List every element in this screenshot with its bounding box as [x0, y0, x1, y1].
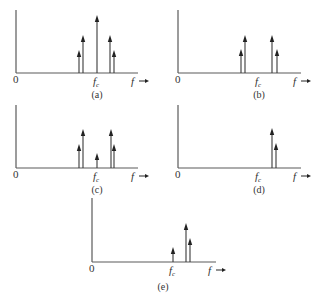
spectral-line-lower-sideband-2 [77, 50, 81, 73]
panel-caption: (a) [91, 89, 102, 101]
arrowhead-icon [270, 35, 274, 42]
arrowhead-icon [274, 143, 278, 150]
panel-caption: (d) [253, 184, 265, 196]
spectral-line-upper-sideband-2 [188, 238, 192, 262]
spectral-line-lower-sideband-1 [243, 35, 247, 73]
spectral-line-lower-sideband-1 [81, 35, 85, 73]
arrow-right-icon [145, 174, 149, 178]
frequency-axis-label: f [293, 170, 298, 182]
origin-label: 0 [13, 73, 19, 85]
arrowhead-icon [184, 223, 188, 230]
arrow-right-icon [222, 268, 226, 272]
arrowhead-icon [112, 50, 116, 57]
spectral-line-carrier [171, 247, 175, 262]
arrowhead-icon [81, 35, 85, 42]
carrier-frequency-label: fc [93, 170, 100, 184]
origin-label: 0 [89, 262, 95, 274]
arrowhead-icon [95, 15, 99, 22]
panel-caption: (b) [253, 89, 265, 101]
arrowhead-icon [239, 49, 243, 56]
spectral-line-upper-sideband-1 [184, 223, 188, 262]
spectral-line-lower-sideband-1 [81, 129, 85, 168]
panel-a: 0fcf(a) [13, 10, 149, 101]
spectral-line-upper-sideband-1 [108, 35, 112, 73]
origin-label: 0 [13, 168, 19, 180]
panel-caption: (e) [157, 281, 168, 293]
spectral-line-lower-sideband-2 [77, 144, 81, 168]
spectral-line-upper-sideband-2 [275, 49, 279, 73]
frequency-axis-label: f [208, 264, 213, 276]
spectral-line-lower-sideband-2 [239, 49, 243, 73]
spectral-line-carrier [95, 153, 99, 168]
carrier-frequency-label: fc [169, 264, 176, 278]
panel-caption: (c) [91, 184, 102, 196]
arrow-right-icon [307, 79, 311, 83]
frequency-axis-label: f [131, 75, 136, 87]
arrowhead-icon [81, 129, 85, 136]
spectral-line-carrier [95, 15, 99, 73]
panel-e: 0fcf(e) [89, 198, 226, 293]
arrowhead-icon [188, 238, 192, 245]
spectral-line-upper-sideband-1 [109, 129, 113, 168]
arrowhead-icon [109, 129, 113, 136]
spectral-line-upper-sideband-2 [112, 144, 116, 168]
arrow-right-icon [145, 79, 149, 83]
spectral-line-upper-sideband-2 [274, 143, 278, 168]
spectral-line-upper-sideband-2 [112, 50, 116, 73]
arrow-right-icon [307, 174, 311, 178]
arrowhead-icon [171, 247, 175, 254]
origin-label: 0 [175, 168, 181, 180]
arrowhead-icon [275, 49, 279, 56]
panel-c: 0fcf(c) [13, 105, 149, 196]
arrowhead-icon [270, 128, 274, 135]
spectral-line-upper-sideband-1 [270, 128, 274, 168]
carrier-frequency-label: fc [255, 170, 262, 184]
arrowhead-icon [95, 153, 99, 160]
arrowhead-icon [108, 35, 112, 42]
origin-label: 0 [175, 73, 181, 85]
arrowhead-icon [77, 50, 81, 57]
arrowhead-icon [77, 144, 81, 151]
arrowhead-icon [243, 35, 247, 42]
panel-b: 0fcf(b) [175, 10, 311, 101]
carrier-frequency-label: fc [93, 75, 100, 89]
frequency-axis-label: f [293, 75, 298, 87]
spectrum-diagram: 0fcf(a)0fcf(b)0fcf(c)0fcf(d)0fcf(e) [0, 0, 326, 304]
arrowhead-icon [112, 144, 116, 151]
carrier-frequency-label: fc [255, 75, 262, 89]
panel-d: 0fcf(d) [175, 105, 311, 196]
spectral-line-upper-sideband-1 [270, 35, 274, 73]
frequency-axis-label: f [131, 170, 136, 182]
